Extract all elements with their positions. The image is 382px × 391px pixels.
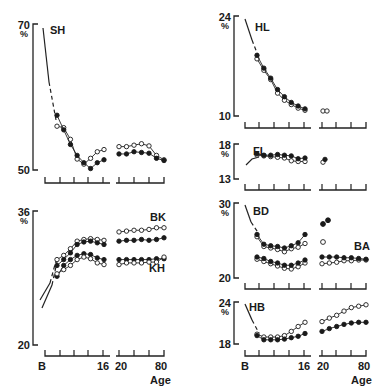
x-axis-adult <box>319 122 366 128</box>
filled-marker <box>303 107 307 111</box>
open-marker <box>334 260 338 264</box>
open-marker <box>102 147 106 151</box>
filled-marker <box>289 244 293 248</box>
open-marker <box>139 261 143 265</box>
open-marker <box>62 267 66 271</box>
x-axis-child <box>245 122 311 128</box>
y-axis-bottom-label: 13 <box>219 173 231 185</box>
panel-label-kh: KH <box>149 262 165 274</box>
filled-marker <box>269 76 273 80</box>
filled-marker <box>117 257 121 261</box>
filled-marker <box>255 255 259 259</box>
filled-marker <box>320 329 324 333</box>
y-axis-bottom-label: 50 <box>18 164 30 176</box>
open-marker <box>124 144 128 148</box>
filled-marker <box>255 53 259 57</box>
filled-marker <box>117 152 121 156</box>
filled-marker <box>303 156 307 160</box>
filled-marker <box>282 263 286 267</box>
filled-marker <box>342 322 346 326</box>
filled-marker <box>95 256 99 260</box>
open-marker <box>321 240 326 245</box>
filled-marker <box>154 237 158 241</box>
filled-marker <box>154 156 158 160</box>
filled-marker <box>68 257 72 261</box>
open-marker <box>95 150 99 154</box>
y-axis <box>234 203 239 278</box>
open-marker <box>55 272 59 276</box>
y-axis-bottom-label: 18 <box>219 338 231 350</box>
open-marker <box>88 156 92 160</box>
open-marker <box>327 261 331 265</box>
filled-marker <box>82 240 86 244</box>
y-axis-bottom-label: 10 <box>219 110 231 122</box>
x-tick-label-80: 80 <box>155 360 167 372</box>
open-marker <box>132 261 136 265</box>
filled-marker <box>82 161 86 165</box>
open-marker <box>296 324 300 328</box>
x-axis-label-age: Age <box>351 374 372 386</box>
open-marker <box>117 262 121 266</box>
panel-label-bk: BK <box>150 211 166 223</box>
filled-marker <box>275 87 279 91</box>
filled-marker <box>275 338 279 342</box>
open-marker <box>82 255 86 259</box>
hl-closed-line <box>257 55 305 109</box>
x-axis-label-age: Age <box>150 374 171 386</box>
filled-marker <box>289 263 293 267</box>
filled-marker <box>255 152 259 156</box>
filled-marker <box>296 261 300 265</box>
filled-marker <box>326 218 331 223</box>
y-axis <box>234 144 239 179</box>
x-tick-label-16: 16 <box>97 360 109 372</box>
x-axis-adult <box>319 184 366 190</box>
x-axis-adult <box>319 350 366 356</box>
filled-marker <box>289 336 293 340</box>
birth-trend-line <box>43 28 49 82</box>
filled-marker <box>75 153 79 157</box>
filled-marker <box>55 113 59 117</box>
open-marker <box>154 226 158 230</box>
filled-marker <box>147 151 151 155</box>
y-axis <box>234 302 239 344</box>
panel-label-ba: BA <box>354 240 370 252</box>
open-marker <box>95 261 99 265</box>
filled-marker <box>102 158 106 162</box>
filled-marker <box>62 128 66 132</box>
filled-marker <box>102 257 106 261</box>
open-marker <box>139 228 143 232</box>
open-marker <box>320 319 324 323</box>
filled-marker <box>303 258 307 262</box>
x-axis-child <box>245 283 311 289</box>
filled-marker <box>282 246 286 250</box>
filled-marker <box>269 338 273 342</box>
y-axis <box>33 211 38 345</box>
x-axis-adult <box>116 350 164 356</box>
filled-marker <box>162 236 166 240</box>
filled-marker <box>296 241 300 245</box>
filled-marker <box>282 337 286 341</box>
filled-marker <box>124 238 128 242</box>
open-marker <box>132 143 136 147</box>
filled-marker <box>296 334 300 338</box>
x-axis-child <box>245 184 311 190</box>
percent-label: % <box>20 29 28 39</box>
open-marker <box>334 313 338 317</box>
filled-marker <box>296 157 300 161</box>
filled-marker <box>289 154 293 158</box>
filled-marker <box>95 161 99 165</box>
open-marker <box>139 142 143 146</box>
filled-marker <box>364 257 368 261</box>
open-marker <box>162 255 166 259</box>
filled-marker <box>334 324 338 328</box>
filled-marker <box>303 232 307 236</box>
filled-marker <box>364 320 368 324</box>
open-marker <box>55 124 59 128</box>
filled-marker <box>88 166 92 170</box>
open-marker <box>303 320 307 324</box>
filled-marker <box>139 237 143 241</box>
filled-marker <box>262 256 266 260</box>
growth-charts-figure: 70%50SH36%20BKKHB162080Age24%10HL18%13FL… <box>0 0 382 391</box>
filled-marker <box>349 321 353 325</box>
open-marker <box>132 228 136 232</box>
